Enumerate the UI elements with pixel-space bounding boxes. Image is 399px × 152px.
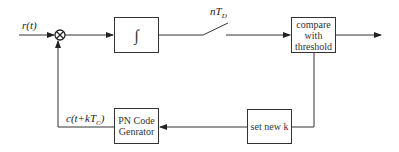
feedback-label: c(t+kTC) bbox=[66, 112, 104, 129]
set-new-k-block: set new k bbox=[247, 109, 292, 144]
multiplier-icon bbox=[55, 30, 65, 40]
diagram-connections bbox=[0, 0, 399, 152]
pn-code-generator-block: PN Code Genrator bbox=[114, 108, 159, 144]
input-label: r(t) bbox=[22, 19, 37, 31]
integrator-block: ∫ bbox=[114, 17, 159, 53]
sampling-switch-icon bbox=[203, 23, 228, 35]
compare-threshold-block: compare with threshold bbox=[291, 17, 336, 53]
integral-icon: ∫ bbox=[134, 30, 138, 41]
compare-to-set-line bbox=[291, 52, 314, 127]
switch-label: nTD bbox=[210, 5, 227, 22]
